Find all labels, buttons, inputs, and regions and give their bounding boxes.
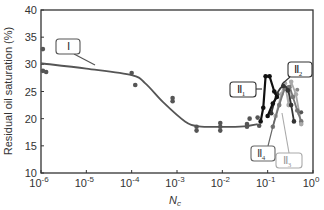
data-point bbox=[218, 128, 223, 133]
data-point bbox=[257, 123, 262, 128]
x-axis-label-main: N bbox=[169, 194, 177, 206]
y-tick-label: 25 bbox=[25, 86, 37, 98]
data-point bbox=[194, 128, 199, 133]
data-point bbox=[289, 103, 294, 108]
x-tick-label: 10-5 bbox=[75, 175, 95, 189]
x-tick-label: 10-3 bbox=[165, 175, 185, 189]
data-point bbox=[265, 114, 270, 119]
x-tick-label: 10-2 bbox=[211, 175, 231, 189]
data-point bbox=[286, 88, 291, 93]
callout-label: Ⅰ bbox=[67, 40, 70, 52]
x-tick-label: 10-6 bbox=[29, 175, 49, 189]
x-tick-label: 10-1 bbox=[256, 175, 276, 189]
y-tick-label: 15 bbox=[25, 140, 37, 152]
data-point bbox=[272, 89, 277, 94]
data-point bbox=[271, 101, 276, 106]
callout-ii-1: Ⅱ1 bbox=[230, 82, 262, 98]
callout-ii-2: Ⅱ2 bbox=[282, 62, 312, 84]
data-point bbox=[295, 108, 300, 113]
data-point bbox=[129, 71, 134, 76]
series-i bbox=[41, 47, 262, 133]
x-tick-label: 10-4 bbox=[120, 175, 140, 189]
series-line bbox=[41, 63, 258, 127]
y-tick-label: 40 bbox=[25, 4, 37, 16]
data-point bbox=[247, 116, 252, 121]
data-point bbox=[41, 47, 46, 52]
x-axis-label: Nc bbox=[169, 194, 181, 208]
y-tick-label: 20 bbox=[25, 113, 37, 125]
data-point bbox=[292, 119, 297, 124]
data-point bbox=[170, 99, 175, 104]
data-point bbox=[263, 74, 268, 79]
callout-pointer bbox=[74, 54, 95, 65]
data-point bbox=[267, 74, 272, 79]
data-point bbox=[277, 103, 282, 108]
y-tick-label: 35 bbox=[25, 31, 37, 43]
callout-pointer bbox=[268, 118, 275, 146]
callout-pointer bbox=[282, 113, 289, 153]
data-point bbox=[261, 106, 266, 111]
callout-ii-3: Ⅱ3 bbox=[276, 113, 302, 169]
y-tick-label: 30 bbox=[25, 58, 37, 70]
data-point bbox=[295, 88, 299, 92]
residual-oil-saturation-chart: 10152025303540 10-610-510-410-310-210-11… bbox=[0, 0, 324, 210]
series-layer bbox=[41, 47, 304, 133]
data-point bbox=[289, 79, 294, 84]
x-tick-label: 100 bbox=[303, 175, 320, 189]
data-point bbox=[281, 84, 286, 89]
data-point bbox=[245, 125, 250, 130]
data-point bbox=[299, 122, 303, 126]
data-point bbox=[299, 110, 303, 114]
callout-i: Ⅰ bbox=[56, 39, 95, 65]
x-axis-label-sub: c bbox=[177, 199, 181, 208]
data-point bbox=[275, 95, 280, 100]
data-point bbox=[291, 95, 296, 100]
data-point bbox=[255, 115, 260, 120]
data-point bbox=[133, 83, 138, 88]
data-point bbox=[258, 119, 263, 124]
data-point bbox=[44, 70, 49, 75]
y-axis-label: Residual oil saturation (%) bbox=[2, 27, 14, 155]
